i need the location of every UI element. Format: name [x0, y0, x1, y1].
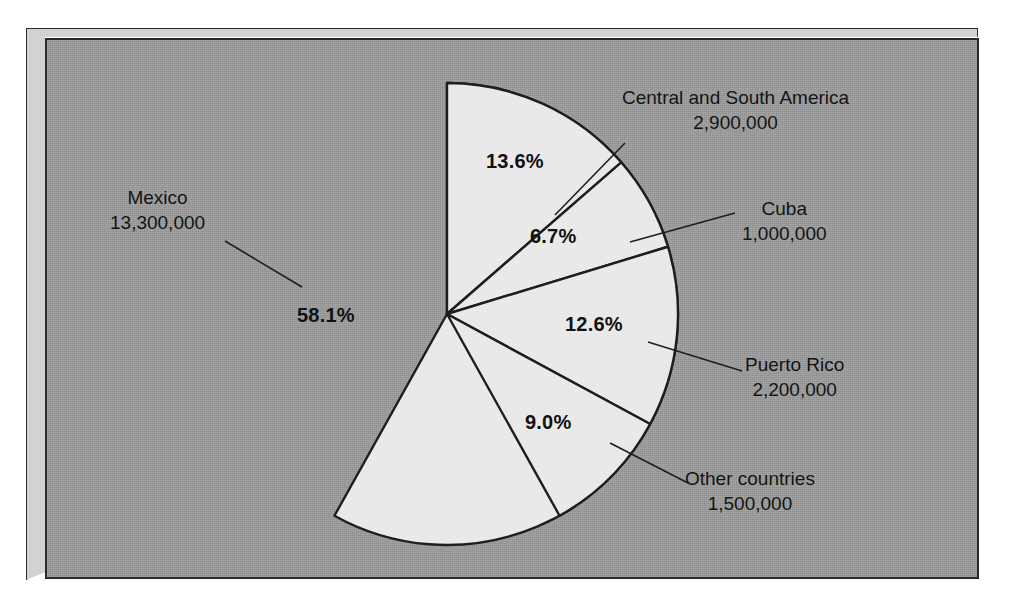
slice-label: Central and South America2,900,000	[622, 85, 849, 135]
slice-percentage: 13.6%	[486, 150, 544, 173]
slice-label-value: 13,300,000	[110, 210, 205, 235]
slice-label: Cuba1,000,000	[742, 196, 827, 246]
slice-label-value: 1,500,000	[685, 491, 815, 516]
slice-label-name: Central and South America	[622, 85, 849, 110]
slice-percentage: 9.0%	[525, 411, 571, 434]
slice-label-value: 1,000,000	[742, 221, 827, 246]
slice-label-name: Cuba	[742, 196, 827, 221]
slice-label-value: 2,200,000	[745, 377, 844, 402]
slice-label: Puerto Rico2,200,000	[745, 352, 844, 402]
chart-screenshot: 58.1%13.6%6.7%12.6%9.0% Mexico13,300,000…	[0, 0, 1023, 599]
slice-percentage: 58.1%	[297, 304, 355, 327]
slice-label-value: 2,900,000	[622, 110, 849, 135]
slice-percentage: 12.6%	[565, 313, 623, 336]
slice-label-name: Mexico	[110, 185, 205, 210]
slice-label-name: Other countries	[685, 466, 815, 491]
slice-label: Other countries1,500,000	[685, 466, 815, 516]
slice-percentage: 6.7%	[530, 225, 576, 248]
slice-label: Mexico13,300,000	[110, 185, 205, 235]
slice-label-name: Puerto Rico	[745, 352, 844, 377]
